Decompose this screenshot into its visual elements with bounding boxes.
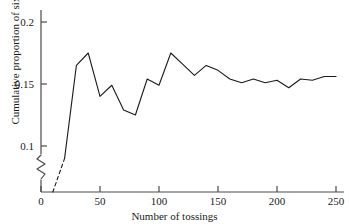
x-tick-label-250: 250	[328, 196, 345, 207]
x-tick-label-200: 200	[269, 196, 286, 207]
x-tick-label-50: 50	[95, 196, 106, 207]
x-axis-title: Number of tossings	[0, 210, 349, 222]
y-axis-ticks	[41, 22, 47, 146]
x-tick-label-100: 100	[151, 196, 168, 207]
x-tick-label-0: 0	[38, 196, 44, 207]
y-axis-break-icon	[37, 154, 46, 180]
chart-figure: 0.2 0.15 0.1 0 50 100 150 200 250 Number…	[0, 0, 349, 224]
x-axis-ticks	[41, 186, 336, 192]
series-line-dashed-segment	[53, 158, 65, 192]
x-tick-label-150: 150	[210, 196, 227, 207]
line-chart-canvas	[0, 0, 349, 224]
y-tick-label-0.1: 0.1	[4, 141, 34, 152]
series-line	[65, 53, 336, 158]
y-axis-title: Cumulative proportion of sixes	[9, 0, 21, 141]
